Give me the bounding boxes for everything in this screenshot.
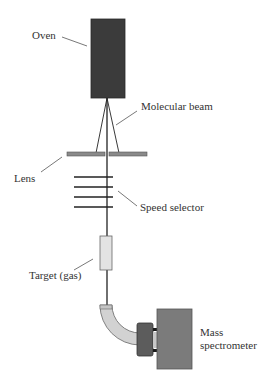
oven-block xyxy=(91,19,125,98)
mass-spectrometer-block xyxy=(157,309,192,369)
bent-detector-tube xyxy=(100,305,140,345)
oven-label: Oven xyxy=(32,29,56,41)
beam-edge-left xyxy=(96,98,107,153)
coupler-connector-top xyxy=(153,328,157,331)
beam-edge-right xyxy=(107,98,119,153)
oven-leader-line xyxy=(62,37,87,46)
tube-inlet-cap xyxy=(100,305,112,309)
target-gas-cell xyxy=(100,236,112,270)
mass-spectrometer-label-line1: Mass xyxy=(200,326,223,338)
lens-left-plate xyxy=(67,152,105,156)
target-leader-line xyxy=(74,259,93,270)
speed-selector-label: Speed selector xyxy=(140,201,204,213)
coupler-connector-bottom xyxy=(153,349,157,352)
coupler-gap xyxy=(153,332,157,348)
speed-selector-leader-line xyxy=(118,191,137,206)
lens-right-plate xyxy=(109,152,147,156)
mass-spectrometer-label-line2: spectrometer xyxy=(200,339,257,351)
target-label: Target (gas) xyxy=(29,269,82,282)
diagram-canvas: Oven Molecular beam Lens Speed selector … xyxy=(0,0,268,381)
apparatus-diagram: Oven Molecular beam Lens Speed selector … xyxy=(0,0,268,381)
lens-label: Lens xyxy=(14,172,35,184)
tube-coupler xyxy=(137,323,153,356)
molecular-beam-leader-line xyxy=(116,111,137,125)
molecular-beam-label: Molecular beam xyxy=(141,100,213,112)
lens-leader-line xyxy=(41,157,62,172)
